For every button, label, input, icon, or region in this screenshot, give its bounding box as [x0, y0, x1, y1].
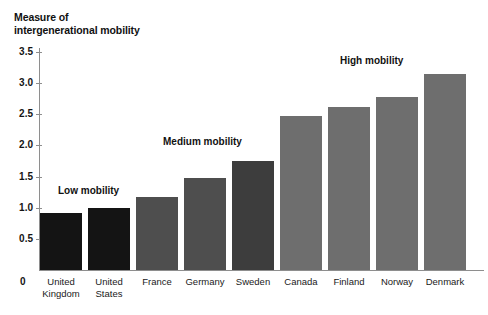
intergenerational-mobility-bar-chart: Measure of intergenerational mobility 0.…	[0, 0, 488, 315]
bar[interactable]	[88, 208, 130, 270]
x-axis-category-label: Sweden	[227, 276, 279, 288]
bars-layer: United KingdomUnited StatesFranceGermany…	[0, 0, 488, 315]
bar[interactable]	[232, 161, 274, 270]
bar[interactable]	[136, 197, 178, 270]
x-axis-category-label: Finland	[323, 276, 375, 288]
bar[interactable]	[424, 74, 466, 270]
x-axis-category-label: United States	[83, 276, 135, 300]
y-axis-origin-label: 0	[20, 276, 26, 287]
group-annotation-label: High mobility	[340, 55, 403, 66]
x-axis-category-label: Germany	[179, 276, 231, 288]
bar[interactable]	[328, 107, 370, 270]
x-axis-category-label: United Kingdom	[35, 276, 87, 300]
x-axis-category-label: Canada	[275, 276, 327, 288]
x-axis-category-label: Norway	[371, 276, 423, 288]
x-axis-category-label: Denmark	[419, 276, 471, 288]
x-axis-category-label: France	[131, 276, 183, 288]
bar[interactable]	[376, 97, 418, 270]
bar[interactable]	[40, 213, 82, 270]
group-annotation-label: Medium mobility	[163, 136, 242, 147]
bar[interactable]	[184, 178, 226, 270]
bar[interactable]	[280, 116, 322, 270]
group-annotation-label: Low mobility	[58, 185, 119, 196]
